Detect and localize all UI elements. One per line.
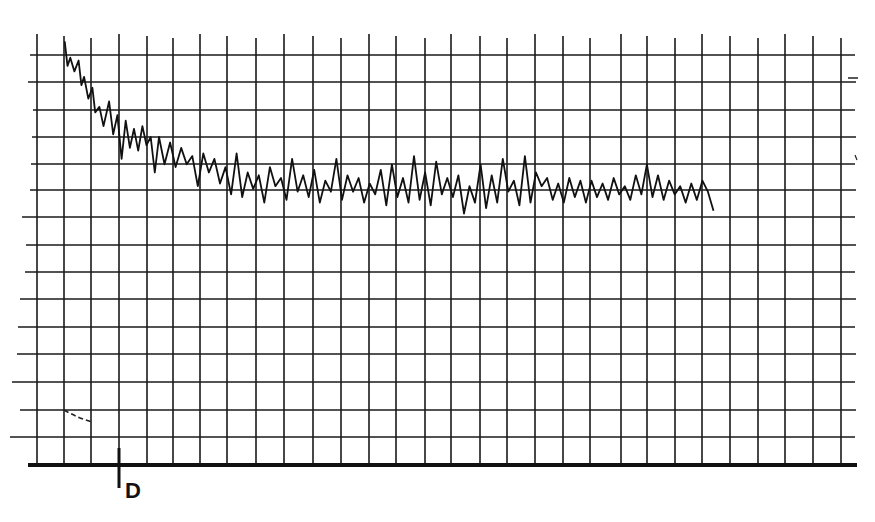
marker-d-label: D bbox=[125, 480, 141, 502]
stray-mark bbox=[855, 155, 857, 160]
chart-recorder-plot: D bbox=[0, 0, 875, 522]
horizontal-gridlines bbox=[10, 55, 856, 437]
signal-trace bbox=[65, 41, 714, 213]
vertical-gridlines bbox=[37, 34, 841, 465]
plot-area bbox=[0, 0, 875, 522]
dashed-curve-mark bbox=[64, 410, 92, 422]
